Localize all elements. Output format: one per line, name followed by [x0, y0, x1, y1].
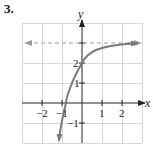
x-axis-label: x: [144, 96, 151, 110]
x-tick-label: 1: [99, 107, 105, 119]
y-axis-label: y: [77, 7, 84, 21]
graph: −2 −1 1 2 2 1 −1 x y: [0, 0, 153, 147]
y-tick-label: 2: [73, 57, 79, 69]
x-tick-label: −1: [56, 107, 68, 119]
y-tick-label: −1: [67, 117, 79, 129]
y-tick-label: 1: [74, 77, 80, 89]
x-tick-label: −2: [36, 107, 48, 119]
x-tick-label: 2: [119, 107, 125, 119]
axes: [22, 20, 145, 143]
